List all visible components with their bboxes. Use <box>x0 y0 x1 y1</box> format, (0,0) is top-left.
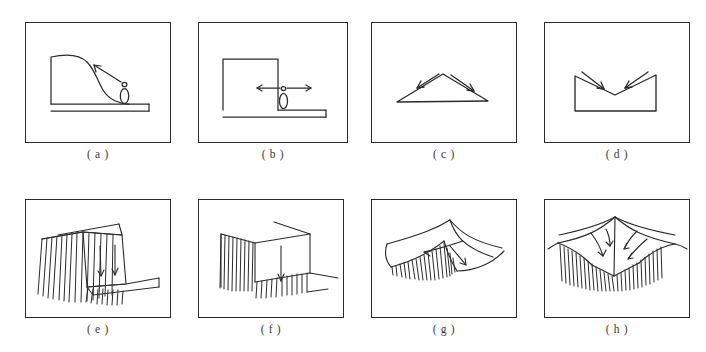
panel-g-caption: ( g ) <box>371 323 517 335</box>
lower-hachures <box>86 288 123 305</box>
outer-surface-left <box>548 243 558 249</box>
panel-e: ( e ) <box>25 199 171 318</box>
basin-axis <box>614 217 615 276</box>
panel-f: ( f ) <box>198 199 344 318</box>
lower-bench-top <box>87 278 159 287</box>
basin-rim-left-inner <box>592 265 614 276</box>
lower-surface-right <box>457 251 504 271</box>
lower-bench-edge <box>307 289 328 292</box>
panel-e-artwork <box>25 199 171 318</box>
outer-surface-right <box>675 244 687 249</box>
right-divergent-arrow-shaft <box>451 75 474 91</box>
curved-arrow-4-shaft <box>628 239 647 259</box>
panel-a: ( a ) <box>25 22 171 143</box>
panel-b: ( b ) <box>198 22 348 143</box>
panel-f-artwork <box>198 199 344 318</box>
human-figure-body <box>120 89 128 104</box>
ridge-crest-right <box>450 220 502 248</box>
panel-b-caption: ( b ) <box>198 148 348 160</box>
scarp-block <box>223 59 278 110</box>
lower-surface-left <box>386 244 391 267</box>
scarp-top-edge <box>42 232 122 239</box>
panel-a-artwork <box>25 22 171 143</box>
upper-surface-line-right <box>274 222 310 234</box>
panel-d-caption: ( d ) <box>544 148 690 160</box>
panel-c-artwork <box>371 22 517 143</box>
ridge-crest-left <box>559 217 615 235</box>
panel-h: ( h ) <box>544 199 690 318</box>
human-figure-body <box>280 93 288 108</box>
panel-d-artwork <box>544 22 690 143</box>
triangle-outline <box>397 74 488 102</box>
curved-arrow-left-shaft <box>424 241 463 252</box>
curved-arrow-3-head <box>624 243 629 249</box>
v-notch-block <box>575 75 656 111</box>
curved-arrow-1-shaft <box>591 233 603 256</box>
displaced-block <box>83 232 126 287</box>
hachured-scarp <box>38 232 113 302</box>
panel-c: ( c ) <box>371 22 517 143</box>
ridge-crest-right-lower <box>450 220 493 257</box>
panel-a-caption: ( a ) <box>25 148 171 160</box>
hachured-arcuate-scarp <box>392 243 455 280</box>
panel-e-caption: ( e ) <box>25 323 171 335</box>
basin-rim-right-inner <box>614 263 639 276</box>
ridge-crest-right <box>615 217 675 235</box>
panel-f-caption: ( f ) <box>198 323 344 335</box>
basin-rim-left <box>558 243 592 265</box>
panel-h-artwork <box>544 199 690 318</box>
panel-c-caption: ( c ) <box>371 148 517 160</box>
panel-g-artwork <box>371 199 517 318</box>
panel-h-caption: ( h ) <box>544 323 690 335</box>
panel-d: ( d ) <box>544 22 690 143</box>
human-figure-head <box>122 82 127 86</box>
panel-g: ( g ) <box>371 199 517 318</box>
crest-edge <box>119 224 122 235</box>
ridge-crest-left <box>387 220 450 244</box>
figure-sheet: ( a ) ( b ) <box>0 0 706 352</box>
panel-b-artwork <box>198 22 348 143</box>
hachured-scarp-left <box>220 234 253 291</box>
human-figure-head <box>281 87 285 91</box>
block-top-right-edge <box>255 234 310 243</box>
block-top-left-edge <box>221 234 255 243</box>
